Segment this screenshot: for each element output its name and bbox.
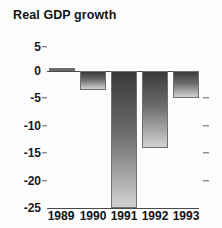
bar-1991 (111, 71, 137, 208)
y-axis-tick-mark-right (203, 152, 209, 153)
y-axis-tick-mark-right (203, 125, 209, 126)
x-axis-tick-label-1992: 1992 (142, 209, 169, 223)
x-axis-tick-label-1993: 1993 (173, 209, 200, 223)
y-axis-tick-label: -5 (30, 91, 41, 105)
x-axis-tick-label-1989: 1989 (48, 209, 75, 223)
y-axis-tick-mark-right (203, 180, 209, 181)
bar-1993 (173, 71, 199, 99)
plot-area (47, 40, 199, 212)
bar-chart: Real GDP growth 5 0 -5 -10 -15 -20 -25 1… (0, 0, 222, 228)
y-axis-tick-label: 0 (34, 64, 41, 78)
y-axis-tick-label: 5 (34, 40, 41, 54)
y-axis-tick-mark-right (203, 97, 209, 98)
y-axis-labels: 5 0 -5 -10 -15 -20 -25 (0, 40, 41, 212)
bar-1989 (49, 68, 75, 71)
y-axis-tick-label: -20 (24, 174, 41, 188)
bar-1992 (142, 71, 168, 148)
y-axis-tick-label: -10 (24, 119, 41, 133)
bar-1990 (80, 71, 106, 90)
x-axis-tick-label-1990: 1990 (80, 209, 107, 223)
y-axis-tick-label: -15 (24, 146, 41, 160)
x-axis-labels: 1989 1990 1991 1992 1993 (34, 209, 222, 227)
x-axis-tick-label-1991: 1991 (111, 209, 138, 223)
chart-title: Real GDP growth (13, 8, 116, 22)
